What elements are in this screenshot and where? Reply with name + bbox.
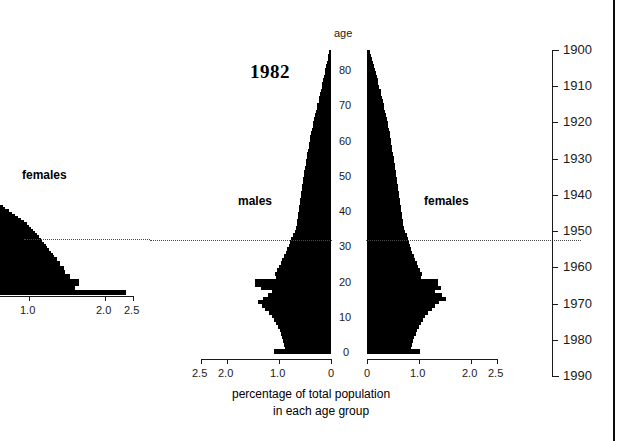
x-tick [279,359,280,364]
bar [367,138,391,142]
bar [367,117,387,121]
bar [367,202,400,206]
bar [304,173,331,177]
bar [367,78,378,82]
year-tick-1900 [552,50,559,51]
females-x-axis [367,359,497,360]
bar [326,64,331,68]
age-tick-40: 40 [339,206,351,217]
bar [319,99,331,103]
bar [261,286,331,290]
bar [316,110,331,114]
bar [306,159,331,163]
left-partial-cohort-line [24,239,150,240]
x-tick [331,359,332,364]
bar [283,339,331,343]
bar [367,103,384,107]
x-tick [201,359,202,364]
left-partial-ticklabel-0: 1.0 [20,305,35,316]
bar [367,339,413,343]
bar [281,332,331,336]
bar [367,290,435,294]
year-tick-1940 [552,195,558,196]
bar [367,64,374,68]
cohort-line-females [366,240,581,241]
bar [328,57,331,61]
bar [322,85,331,89]
age-tick-30: 30 [339,241,351,252]
bar [367,180,397,184]
year-tick-1990 [552,376,559,377]
age-tick-70: 70 [339,100,351,111]
bar [367,131,390,135]
bar [367,156,394,160]
bar [298,212,331,216]
bar [367,283,438,287]
year-tick-label-1910: 1910 [563,80,592,91]
bar [367,82,378,86]
year-tick-label-1900: 1900 [563,44,592,55]
bar [367,50,370,54]
bar [278,325,331,329]
bar [269,311,331,315]
bar [367,244,410,248]
bar [268,293,331,297]
bar [308,149,331,153]
bar [301,195,331,199]
bar [367,265,418,269]
bar [272,314,331,318]
bar [322,82,331,86]
x-tick-label: 2.5 [488,368,503,379]
bar [367,184,398,188]
bar [367,332,416,336]
bar [320,92,331,96]
x-tick [367,359,368,364]
bar [275,272,331,276]
bar [367,297,446,301]
age-tick-50: 50 [339,171,351,182]
year-tick-label-1950: 1950 [563,225,592,236]
year-axis: 1900191019201930194019501960197019801990 [552,40,612,385]
bar [302,184,331,188]
bar [274,349,331,353]
bar [310,138,331,142]
bar [367,230,405,234]
year-tick-label-1960: 1960 [563,261,592,272]
bar [367,57,372,61]
bar [285,346,331,350]
bar [367,268,420,272]
bar [262,304,331,308]
bar [367,124,388,128]
bar [367,279,438,283]
bar [367,261,417,265]
bar [297,223,331,227]
bar [293,233,331,237]
bar [255,279,331,283]
age-tick-0: 0 [343,347,349,358]
bar [367,68,375,72]
year-tick-label-1920: 1920 [563,116,592,127]
x-tick-label: 2.0 [462,368,477,379]
age-tick-20: 20 [339,277,351,288]
x-tick-label: 2.5 [192,368,207,379]
bar [367,71,376,75]
bar [367,314,425,318]
bar [367,247,411,251]
bar [367,198,400,202]
x-tick-label: 1.0 [270,368,285,379]
bar [367,99,383,103]
bar [305,166,331,170]
bar [286,251,331,255]
bar [263,297,331,301]
bar [367,152,393,156]
bar [300,202,331,206]
year-tick-label-1990: 1990 [563,370,592,381]
bar [311,131,331,135]
bar [367,173,396,177]
bar [367,75,377,79]
bar [367,159,394,163]
bar [265,307,331,311]
bar [321,89,331,93]
bar [295,230,331,234]
bar [287,247,331,251]
